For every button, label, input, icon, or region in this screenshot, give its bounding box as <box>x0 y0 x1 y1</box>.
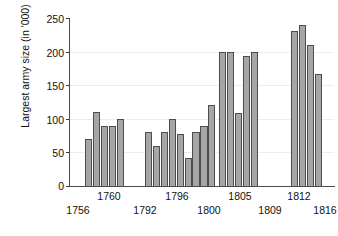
bar <box>85 139 92 186</box>
bar <box>117 119 124 186</box>
bar <box>219 52 226 186</box>
bar <box>299 25 306 186</box>
bar <box>251 52 258 186</box>
bar <box>161 132 168 186</box>
y-tick-label-0: 0 <box>36 181 64 191</box>
y-tick-label-200: 200 <box>36 48 64 58</box>
x-tick-label-1809: 1809 <box>258 204 281 216</box>
bar <box>153 146 160 186</box>
bar <box>235 113 242 186</box>
y-tick-label-100: 100 <box>36 115 64 125</box>
x-tick-label-1760: 1760 <box>97 190 120 202</box>
bar <box>208 105 215 186</box>
bar <box>291 31 298 186</box>
x-tick-label-1816: 1816 <box>313 204 336 216</box>
y-tick-label-150: 150 <box>36 81 64 91</box>
x-tick-label-1796: 1796 <box>165 190 188 202</box>
plot-area <box>69 18 335 186</box>
y-axis-tick-labels: 250 200 150 100 50 0 <box>34 0 64 236</box>
x-axis-line <box>69 186 335 187</box>
x-tick-label-1792: 1792 <box>133 204 156 216</box>
bar <box>243 56 250 186</box>
y-tick-label-50: 50 <box>36 148 64 158</box>
bar <box>109 126 116 186</box>
bar <box>227 52 234 186</box>
x-tick-label-1756: 1756 <box>66 204 89 216</box>
y-tick-label-250: 250 <box>36 14 64 24</box>
x-tick-label-1812: 1812 <box>287 190 310 202</box>
bar <box>93 112 100 186</box>
bar <box>315 74 322 186</box>
y-axis-title: Largest army size (in '000) <box>19 0 31 151</box>
bar <box>185 158 192 186</box>
bar <box>145 132 152 186</box>
bar <box>101 126 108 186</box>
x-tick-label-1805: 1805 <box>228 190 251 202</box>
bar <box>307 45 314 186</box>
bar <box>192 132 199 186</box>
bar <box>200 126 207 186</box>
bar-chart: Largest army size (in '000) 250 200 150 … <box>0 0 338 236</box>
bar <box>169 119 176 186</box>
bars-layer <box>69 18 335 186</box>
x-tick-label-1800: 1800 <box>197 204 220 216</box>
bar <box>177 134 184 186</box>
